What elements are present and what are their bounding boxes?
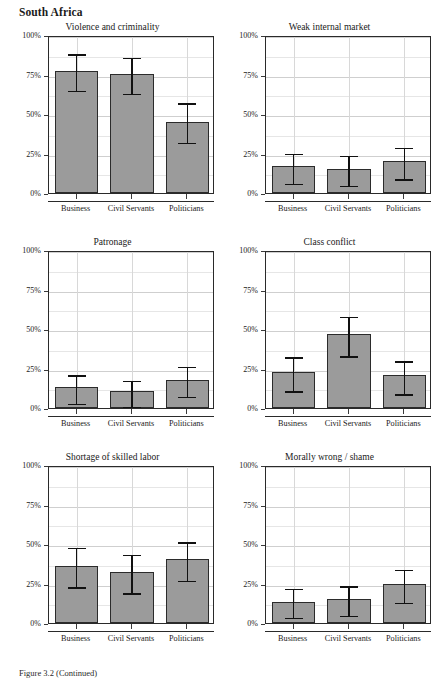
gridline-horizontal bbox=[266, 37, 430, 38]
x-axis-rule bbox=[265, 201, 431, 202]
y-tick-label: 75% bbox=[218, 287, 258, 295]
x-tick-label: Civil Servants bbox=[325, 634, 372, 644]
error-bar-cap-lower bbox=[123, 94, 141, 96]
error-bar-cap-lower bbox=[340, 616, 358, 618]
gridline-horizontal bbox=[49, 371, 213, 372]
gridline-horizontal-minor bbox=[266, 272, 430, 273]
error-bar-line bbox=[187, 367, 189, 397]
gridline-horizontal bbox=[49, 292, 213, 293]
x-tick-mark bbox=[403, 624, 404, 629]
gridline-horizontal bbox=[49, 252, 213, 253]
gridline-horizontal bbox=[266, 467, 430, 468]
error-bar-line bbox=[348, 317, 350, 357]
x-tick-label: Politicians bbox=[386, 634, 421, 644]
gridline-horizontal-minor bbox=[49, 272, 213, 273]
gridline-horizontal-minor bbox=[266, 57, 430, 58]
error-bar-cap-upper bbox=[123, 58, 141, 60]
x-tick-label: Civil Servants bbox=[108, 419, 155, 429]
x-tick-mark bbox=[186, 624, 187, 629]
gridline-horizontal-minor bbox=[49, 351, 213, 352]
gridline-horizontal bbox=[49, 507, 213, 508]
error-bar-line bbox=[187, 103, 189, 143]
error-bar-cap-lower bbox=[178, 581, 196, 583]
error-bar-cap-lower bbox=[285, 391, 303, 393]
gridline-horizontal-minor bbox=[266, 526, 430, 527]
chart-panel: Weak internal market0%25%50%75%100%Busin… bbox=[223, 20, 436, 233]
x-tick-label: Business bbox=[278, 419, 307, 429]
x-tick-label: Politicians bbox=[386, 419, 421, 429]
error-bar-cap-upper bbox=[340, 317, 358, 319]
error-bar-cap-upper bbox=[395, 361, 413, 363]
x-tick-mark bbox=[76, 409, 77, 414]
y-tick-label: 25% bbox=[218, 151, 258, 159]
x-tick-label: Business bbox=[278, 634, 307, 644]
y-tick-label: 0% bbox=[218, 405, 258, 413]
chart-panel: Morally wrong / shame0%25%50%75%100%Busi… bbox=[223, 450, 436, 663]
y-tick-label: 50% bbox=[218, 111, 258, 119]
y-tick-label: 25% bbox=[1, 151, 41, 159]
x-tick-label: Politicians bbox=[169, 634, 204, 644]
x-tick-mark bbox=[293, 409, 294, 414]
x-axis-rule bbox=[48, 201, 214, 202]
x-tick-mark bbox=[131, 624, 132, 629]
x-tick-mark bbox=[293, 194, 294, 199]
gridline-horizontal bbox=[49, 467, 213, 468]
y-tick-label: 75% bbox=[218, 72, 258, 80]
y-tick-label: 75% bbox=[1, 502, 41, 510]
x-tick-mark bbox=[403, 194, 404, 199]
y-tick-label: 50% bbox=[1, 111, 41, 119]
error-bar-cap-upper bbox=[285, 357, 303, 359]
error-bar-cap-lower bbox=[395, 394, 413, 396]
y-tick-label: 0% bbox=[218, 190, 258, 198]
error-bar-line bbox=[293, 154, 295, 184]
x-tick-mark bbox=[293, 624, 294, 629]
x-tick-mark bbox=[186, 194, 187, 199]
error-bar-cap-lower bbox=[68, 587, 86, 589]
x-axis: BusinessCivil ServantsPoliticians bbox=[265, 409, 431, 431]
x-tick-label: Politicians bbox=[169, 419, 204, 429]
error-bar-line bbox=[404, 148, 406, 180]
chart-panel: Class conflict0%25%50%75%100%BusinessCiv… bbox=[223, 235, 436, 448]
y-tick-label: 75% bbox=[218, 502, 258, 510]
y-axis: 0%25%50%75%100% bbox=[6, 36, 48, 194]
gridline-horizontal bbox=[266, 546, 430, 547]
x-axis: BusinessCivil ServantsPoliticians bbox=[265, 624, 431, 646]
y-tick-label: 75% bbox=[1, 72, 41, 80]
x-tick-label: Civil Servants bbox=[325, 419, 372, 429]
y-tick-label: 25% bbox=[218, 366, 258, 374]
x-tick-mark bbox=[76, 194, 77, 199]
gridline-horizontal bbox=[49, 37, 213, 38]
x-tick-label: Business bbox=[278, 204, 307, 214]
error-bar-line bbox=[404, 570, 406, 603]
plot-area bbox=[265, 251, 431, 409]
y-tick-label: 25% bbox=[218, 581, 258, 589]
x-tick-mark bbox=[403, 409, 404, 414]
gridline-horizontal-minor bbox=[266, 311, 430, 312]
x-tick-mark bbox=[348, 624, 349, 629]
error-bar-cap-lower bbox=[340, 356, 358, 358]
x-tick-label: Civil Servants bbox=[108, 634, 155, 644]
panel-grid: Violence and criminality0%25%50%75%100%B… bbox=[0, 20, 445, 660]
error-bar-line bbox=[293, 357, 295, 391]
error-bar-cap-lower bbox=[285, 184, 303, 186]
error-bar-cap-upper bbox=[68, 375, 86, 377]
gridline-horizontal-minor bbox=[266, 487, 430, 488]
gridline-horizontal bbox=[266, 252, 430, 253]
gridline-horizontal-minor bbox=[266, 136, 430, 137]
y-tick-label: 0% bbox=[1, 405, 41, 413]
x-tick-mark bbox=[186, 409, 187, 414]
y-axis: 0%25%50%75%100% bbox=[223, 466, 265, 624]
x-tick-mark bbox=[348, 194, 349, 199]
y-tick-label: 100% bbox=[1, 462, 41, 470]
y-axis: 0%25%50%75%100% bbox=[223, 36, 265, 194]
x-tick-mark bbox=[131, 409, 132, 414]
error-bar-cap-upper bbox=[285, 589, 303, 591]
error-bar-line bbox=[187, 542, 189, 581]
error-bar-cap-upper bbox=[395, 148, 413, 150]
error-bar-cap-upper bbox=[340, 586, 358, 588]
error-bar-line bbox=[76, 375, 78, 403]
error-bar-line bbox=[131, 381, 133, 407]
error-bar-cap-lower bbox=[123, 593, 141, 595]
x-axis: BusinessCivil ServantsPoliticians bbox=[48, 194, 214, 216]
x-tick-label: Civil Servants bbox=[325, 204, 372, 214]
